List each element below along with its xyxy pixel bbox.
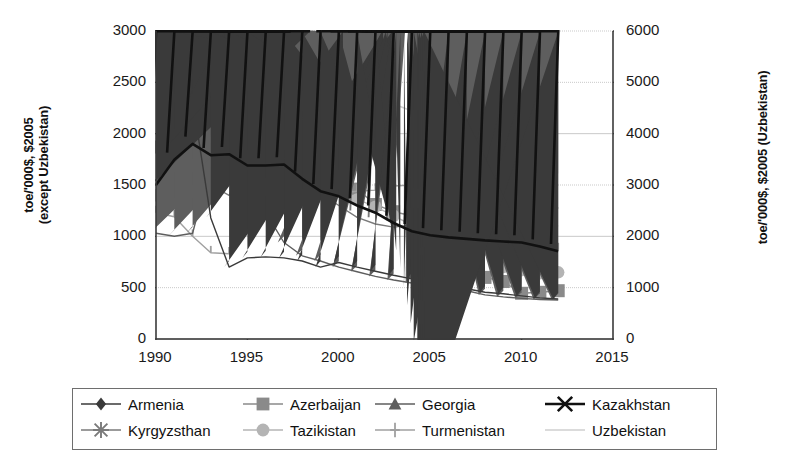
legend-label: Tazikistan: [290, 422, 356, 439]
x-marker-icon: [543, 395, 587, 413]
legend-item-kyrgyzsthan[interactable]: Kyrgyzsthan: [79, 421, 211, 439]
legend-label: Uzbekistan: [592, 422, 666, 439]
y-axis-right-tick-5000: 5000: [626, 72, 659, 89]
legend-item-azerbaijan[interactable]: Azerbaijan: [241, 395, 361, 413]
y-axis-right-tick-2000: 2000: [626, 226, 659, 243]
x-axis-tick-2015: 2015: [582, 348, 642, 365]
y-axis-right-tick-6000: 6000: [626, 21, 659, 38]
asterisk-marker-icon: [79, 421, 123, 439]
plot-area: [155, 30, 612, 338]
chart-figure: toe/'000$, $2005 (except Uzbekistan) toe…: [0, 0, 789, 463]
plus-marker-icon: [373, 421, 417, 439]
y-axis-right-tick-0: 0: [626, 329, 634, 346]
y-axis-left-tick-1500: 1500: [88, 175, 146, 192]
x-axis-tick-1995: 1995: [216, 348, 276, 365]
y-axis-left-title: toe/'000$, $2005 (except Uzbekistan): [21, 85, 51, 245]
y-axis-right-tick-1000: 1000: [626, 278, 659, 295]
legend-label: Turmenistan: [422, 422, 505, 439]
y-axis-right-tick-4000: 4000: [626, 124, 659, 141]
y-axis-left-tick-2000: 2000: [88, 124, 146, 141]
legend-item-turmenistan[interactable]: Turmenistan: [373, 421, 505, 439]
y-axis-left-tick-2500: 2500: [88, 72, 146, 89]
legend-item-kazakhstan[interactable]: Kazakhstan: [543, 395, 670, 413]
x-axis-tick-1990: 1990: [125, 348, 185, 365]
legend-item-armenia[interactable]: Armenia: [79, 395, 184, 413]
line-marker-icon: [543, 421, 587, 439]
x-axis-tick-2005: 2005: [399, 348, 459, 365]
legend-label: Azerbaijan: [290, 396, 361, 413]
chart-legend: Armenia Azerbaijan Georgia Kazakhstan Ky…: [72, 388, 717, 450]
y-axis-right-tick-3000: 3000: [626, 175, 659, 192]
circle-marker-icon: [241, 421, 285, 439]
y-axis-left-tick-3000: 3000: [88, 21, 146, 38]
legend-item-georgia[interactable]: Georgia: [373, 395, 475, 413]
diamond-marker-icon: [79, 395, 123, 413]
legend-label: Kazakhstan: [592, 396, 670, 413]
x-axis-tick-2000: 2000: [308, 348, 368, 365]
y-axis-left-tick-0: 0: [88, 329, 146, 346]
legend-item-tazikistan[interactable]: Tazikistan: [241, 421, 356, 439]
legend-label: Georgia: [422, 396, 475, 413]
y-axis-left-title-line2: (except Uzbekistan): [36, 85, 51, 245]
legend-item-uzbekistan[interactable]: Uzbekistan: [543, 421, 666, 439]
square-marker-icon: [241, 395, 285, 413]
y-axis-right-title: toe/'000$, $2005 (Uzbekistan): [755, 68, 770, 248]
y-axis-left-tick-1000: 1000: [88, 226, 146, 243]
legend-label: Kyrgyzsthan: [128, 422, 211, 439]
triangle-marker-icon: [373, 395, 417, 413]
y-axis-left-tick-500: 500: [88, 278, 146, 295]
legend-label: Armenia: [128, 396, 184, 413]
y-axis-left-title-line1: toe/'000$, $2005: [21, 85, 36, 245]
x-axis-tick-2010: 2010: [491, 348, 551, 365]
